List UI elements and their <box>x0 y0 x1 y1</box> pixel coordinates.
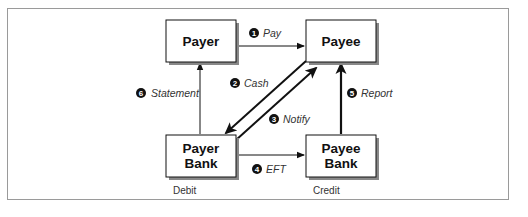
svg-text:Statement: Statement <box>151 87 200 99</box>
node-payee-bank: Payee Bank <box>306 135 379 180</box>
label-notify: 3 Notify <box>269 113 311 125</box>
svg-text:EFT: EFT <box>266 163 287 175</box>
label-statement: 6 Statement <box>136 87 200 99</box>
node-payer: Payer <box>166 20 239 65</box>
node-payer-bank-line1: Payer <box>183 141 221 156</box>
node-payee-label: Payee <box>321 34 361 49</box>
node-payer-label: Payer <box>183 34 221 49</box>
node-payee-bank-line1: Payee <box>321 141 361 156</box>
label-cash: 2 Cash <box>230 77 269 89</box>
node-payer-bank: Payer Bank <box>166 135 239 180</box>
svg-text:Report: Report <box>361 87 394 99</box>
svg-text:1: 1 <box>252 29 257 38</box>
svg-text:Pay: Pay <box>263 27 282 39</box>
svg-text:6: 6 <box>139 89 144 98</box>
payment-flow-diagram: Payer Payee Payer Bank Payee Bank Debit … <box>0 0 528 217</box>
label-pay: 1 Pay <box>249 27 282 39</box>
node-payer-bank-line2: Bank <box>184 156 218 171</box>
svg-text:3: 3 <box>272 115 277 124</box>
svg-text:5: 5 <box>350 89 355 98</box>
caption-credit: Credit <box>313 185 340 196</box>
caption-debit: Debit <box>173 185 197 196</box>
svg-text:2: 2 <box>233 79 238 88</box>
node-payee: Payee <box>306 20 379 65</box>
label-report: 5 Report <box>347 87 394 99</box>
svg-text:4: 4 <box>255 165 260 174</box>
label-eft: 4 EFT <box>252 163 287 175</box>
svg-text:Notify: Notify <box>283 113 311 125</box>
svg-text:Cash: Cash <box>244 77 269 89</box>
node-payee-bank-line2: Bank <box>324 156 358 171</box>
